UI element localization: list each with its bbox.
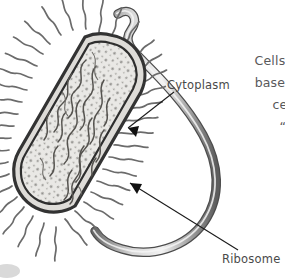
leader-lines [128,92,238,250]
body-paragraph: Cells based ce “, [232,50,285,138]
cytoplasm-label: Cytoplasm [167,78,230,92]
body-line-3: ce [232,94,285,116]
ribosome-label: Ribosome [222,252,280,266]
bacterial-cell-figure: Cytoplasm Ribosome Cells based ce “, [0,0,285,278]
cell-illustration [0,0,285,278]
body-line-1: Cells [232,50,285,72]
body-line-2: based [232,72,285,94]
body-line-4: “, [232,116,285,138]
edge-smudge [0,264,20,278]
